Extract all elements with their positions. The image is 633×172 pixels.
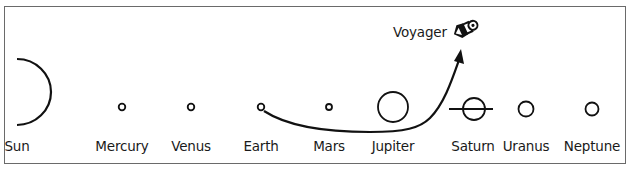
spacecraft-icon [451,17,480,40]
earth-shape [258,104,265,111]
label-mercury: Mercury [95,138,148,154]
label-venus: Venus [171,138,211,154]
label-jupiter: Jupiter [372,138,415,154]
label-uranus: Uranus [503,138,550,154]
label-earth: Earth [243,138,278,154]
label-mars: Mars [313,138,345,154]
venus-shape [188,104,195,111]
mercury-shape [119,104,126,111]
label-sun: Sun [4,138,29,154]
voyager-label: Voyager [393,24,447,40]
uranus-shape [519,102,534,117]
label-neptune: Neptune [564,138,620,154]
label-saturn: Saturn [451,138,494,154]
mars-shape [326,104,332,110]
trajectory-path [264,60,459,132]
saturn-shape [449,98,493,120]
sun-shape [17,59,51,125]
jupiter-shape [378,92,408,122]
neptune-shape [586,103,599,116]
arrowhead-icon [454,49,464,64]
